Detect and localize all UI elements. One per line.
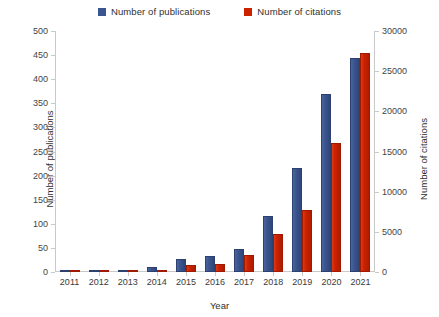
- bar-citations[interactable]: [244, 255, 254, 272]
- y-axis-left-tick-label: 200: [33, 171, 48, 180]
- bars-layer: 2011201220132014201520162017201820192020…: [55, 31, 375, 272]
- legend-label-citations: Number of citations: [257, 6, 341, 17]
- y-axis-right-tick-label: 25000: [382, 67, 407, 76]
- bar-group: 2018: [259, 31, 288, 272]
- bar-citations[interactable]: [302, 210, 312, 272]
- bar-publications[interactable]: [176, 259, 186, 272]
- bar-group: 2021: [346, 31, 375, 272]
- y-axis-left-tick-label: 50: [38, 243, 48, 252]
- bar-citations[interactable]: [186, 265, 196, 272]
- chart-legend: Number of publications Number of citatio…: [0, 6, 439, 17]
- square-swatch-red-icon: [244, 8, 252, 16]
- bar-group: 2020: [317, 31, 346, 272]
- x-axis-tick-mark: [331, 272, 332, 276]
- bar-publications[interactable]: [147, 267, 157, 272]
- x-axis-tick-label: 2019: [292, 277, 312, 287]
- bar-publications[interactable]: [350, 58, 360, 272]
- bar-citations[interactable]: [331, 143, 341, 272]
- y-axis-left-tick-label: 350: [33, 99, 48, 108]
- bar-citations[interactable]: [215, 264, 225, 272]
- x-axis-tick-mark: [215, 272, 216, 276]
- y-axis-left-tick-label: 500: [33, 27, 48, 36]
- x-axis-tick-label: 2012: [89, 277, 109, 287]
- plot-area: 050100150200250300350400450500 050001000…: [55, 31, 375, 272]
- bar-publications[interactable]: [263, 216, 273, 272]
- bar-group: 2011: [55, 31, 84, 272]
- y-axis-left-tick-label: 450: [33, 51, 48, 60]
- y-axis-left-tick-label: 0: [43, 268, 48, 277]
- bar-citations[interactable]: [128, 270, 138, 272]
- y-axis-right-tick-mark: [375, 31, 379, 32]
- y-axis-right-tick-mark: [375, 192, 379, 193]
- y-axis-left-tick-mark: [51, 272, 55, 273]
- x-axis-tick-label: 2017: [234, 277, 254, 287]
- y-axis-left-tick-label: 300: [33, 123, 48, 132]
- x-axis-tick-label: 2011: [60, 277, 79, 287]
- x-axis-tick-label: 2020: [321, 277, 341, 287]
- x-axis-tick-label: 2021: [350, 277, 370, 287]
- y-axis-right-tick-mark: [375, 111, 379, 112]
- x-axis-tick-mark: [244, 272, 245, 276]
- square-swatch-blue-icon: [98, 8, 106, 16]
- y-axis-right-tick-label: 5000: [382, 227, 402, 236]
- y-axis-right-tick-mark: [375, 71, 379, 72]
- x-axis-tick-mark: [360, 272, 361, 276]
- x-axis-tick-mark: [302, 272, 303, 276]
- y-axis-right-tick-label: 20000: [382, 107, 407, 116]
- bar-publications[interactable]: [321, 94, 331, 272]
- x-axis-tick-label: 2013: [118, 277, 138, 287]
- y-axis-left-tick-label: 250: [33, 147, 48, 156]
- x-axis-tick-mark: [128, 272, 129, 276]
- y-axis-right-tick-label: 15000: [382, 147, 407, 156]
- bar-publications[interactable]: [205, 256, 215, 272]
- y-axis-right-tick-mark: [375, 152, 379, 153]
- y-axis-right-title: Number of citations: [419, 118, 430, 200]
- bar-group: 2017: [230, 31, 259, 272]
- x-axis-tick-mark: [273, 272, 274, 276]
- y-axis-right-tick-mark: [375, 232, 379, 233]
- x-axis-tick-mark: [99, 272, 100, 276]
- x-axis-tick-label: 2014: [147, 277, 167, 287]
- bar-publications[interactable]: [89, 270, 99, 272]
- bar-group: 2012: [84, 31, 113, 272]
- bar-group: 2015: [171, 31, 200, 272]
- x-axis-tick-mark: [157, 272, 158, 276]
- x-axis-tick-label: 2018: [263, 277, 283, 287]
- y-axis-right-tick-mark: [375, 272, 379, 273]
- bar-publications[interactable]: [60, 270, 70, 272]
- bar-citations[interactable]: [360, 53, 370, 272]
- y-axis-left-tick-label: 150: [33, 195, 48, 204]
- bar-publications[interactable]: [118, 270, 128, 272]
- y-axis-left-tick-label: 100: [33, 219, 48, 228]
- x-axis-tick-label: 2016: [205, 277, 225, 287]
- bar-group: 2013: [113, 31, 142, 272]
- y-axis-right-tick-label: 30000: [382, 27, 407, 36]
- bar-chart: Number of publications Number of citatio…: [0, 0, 439, 317]
- x-axis-title: Year: [0, 300, 439, 311]
- x-axis-tick-mark: [70, 272, 71, 276]
- x-axis-tick-mark: [186, 272, 187, 276]
- legend-label-publications: Number of publications: [111, 6, 210, 17]
- bar-citations[interactable]: [157, 270, 167, 272]
- y-axis-right-tick-label: 0: [382, 268, 387, 277]
- bar-citations[interactable]: [273, 234, 283, 272]
- x-axis-tick-label: 2015: [176, 277, 196, 287]
- bar-citations[interactable]: [99, 270, 109, 272]
- y-axis-left-tick-label: 400: [33, 75, 48, 84]
- legend-entry-citations: Number of citations: [244, 6, 341, 17]
- bar-publications[interactable]: [292, 168, 302, 272]
- y-axis-right-tick-label: 10000: [382, 187, 407, 196]
- bar-group: 2019: [288, 31, 317, 272]
- bar-citations[interactable]: [70, 270, 80, 272]
- bar-group: 2016: [200, 31, 229, 272]
- legend-entry-publications: Number of publications: [98, 6, 210, 17]
- bar-group: 2014: [142, 31, 171, 272]
- bar-publications[interactable]: [234, 249, 244, 272]
